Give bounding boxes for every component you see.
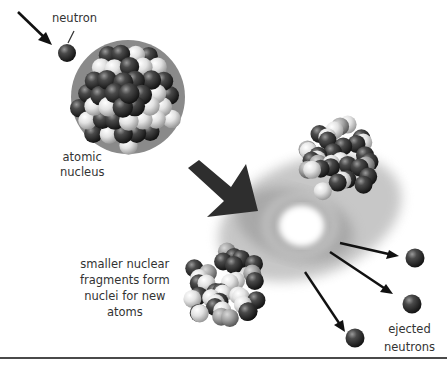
proton-sphere xyxy=(303,161,321,179)
neutron-leader-line xyxy=(68,31,74,43)
neutron-sphere xyxy=(239,303,257,321)
fragments-label-line2: fragments form xyxy=(80,272,170,288)
ejected-neutron-3 xyxy=(346,329,365,348)
atomic-nucleus-label-line2: nucleus xyxy=(60,165,104,180)
fragments-label-line3: nuclei for new xyxy=(80,288,170,304)
neutron-sphere xyxy=(246,272,264,290)
fragments-label: smaller nuclear fragments form nuclei fo… xyxy=(80,256,170,320)
neutron-sphere xyxy=(355,176,373,194)
fragments-label-line1: smaller nuclear xyxy=(80,256,170,272)
ejected-neutrons-label-line2: neutrons xyxy=(384,338,435,356)
incoming-arrow xyxy=(18,12,52,45)
ejected-neutrons-label: ejected neutrons xyxy=(384,320,435,356)
ejected-neutron-2 xyxy=(403,295,422,314)
incoming-neutron xyxy=(58,44,76,62)
proton-sphere xyxy=(221,309,239,327)
neutron-label: neutron xyxy=(52,11,97,26)
fragments-label-line4: atoms xyxy=(80,304,170,320)
ejected-neutron-1 xyxy=(406,249,425,268)
atomic-nucleus xyxy=(70,40,185,155)
atomic-nucleus-label-line1: atomic xyxy=(60,150,104,165)
neutron-sphere xyxy=(225,256,243,274)
fragment-lower-left xyxy=(183,243,265,327)
neutron-sphere xyxy=(119,83,140,104)
atomic-nucleus-label: atomic nucleus xyxy=(60,150,104,180)
fission-diagram: neutron atomic nucleus smaller nuclear f… xyxy=(0,0,447,369)
big-reaction-arrow xyxy=(188,160,258,217)
ejected-neutrons-label-line1: ejected xyxy=(384,320,435,338)
diagram-canvas xyxy=(0,0,447,369)
bottom-divider xyxy=(0,357,447,359)
proton-sphere xyxy=(314,182,332,200)
proton-sphere xyxy=(191,304,209,322)
